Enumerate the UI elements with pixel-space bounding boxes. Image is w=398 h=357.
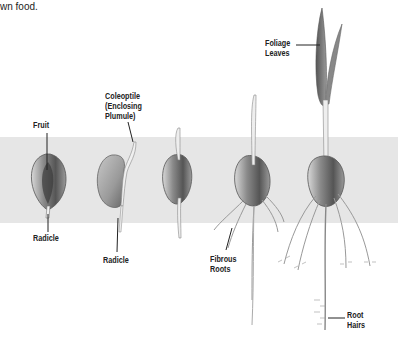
leaf-2 xyxy=(326,24,342,104)
stem xyxy=(323,100,328,165)
stage-3-elongation xyxy=(163,128,192,238)
label-radicle-2: Radicle xyxy=(103,255,129,265)
stage-2-coleoptile xyxy=(97,142,136,232)
bean-shape xyxy=(97,155,124,208)
stage-5-foliage-leaves xyxy=(278,8,376,330)
radicle xyxy=(119,206,123,232)
leader-radicle-2 xyxy=(117,218,118,252)
leaf-1 xyxy=(316,8,327,106)
label-radicle-1: Radicle xyxy=(33,233,59,243)
label-fibrous-roots: Fibrous Roots xyxy=(210,254,236,274)
leader-coleoptile xyxy=(128,122,133,142)
shoot xyxy=(252,95,257,165)
radicle xyxy=(178,198,181,238)
stage-1-fruit-radicle xyxy=(31,154,66,218)
label-coleoptile: Coleoptile (Enclosing Plumule) xyxy=(105,91,142,121)
label-foliage-leaves: Foliage Leaves xyxy=(265,38,290,58)
stage-4-fibrous-roots xyxy=(214,95,284,325)
label-root-hairs: Root Hairs xyxy=(347,310,365,330)
leader-lines xyxy=(47,45,345,318)
label-fruit: Fruit xyxy=(33,120,49,130)
seed-shape xyxy=(163,154,192,204)
germination-diagram xyxy=(0,0,398,357)
